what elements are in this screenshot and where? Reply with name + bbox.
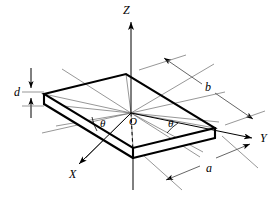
dimension-a-label: a [206, 162, 212, 174]
figure-canvas: Z Y X O θ θ d b a [0, 0, 277, 201]
theta-left-label: θ [100, 118, 105, 129]
y-axis-label: Y [260, 132, 267, 144]
dimension-d [22, 68, 44, 118]
dimension-b-label: b [205, 81, 211, 93]
origin-label: O [129, 116, 137, 127]
dimension-d-label: d [14, 86, 20, 98]
theta-right-label: θ [168, 118, 173, 129]
x-axis-label: X [69, 168, 76, 180]
plate-diagram-svg [0, 0, 277, 201]
z-axis-label: Z [123, 4, 130, 16]
